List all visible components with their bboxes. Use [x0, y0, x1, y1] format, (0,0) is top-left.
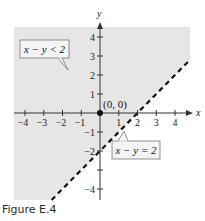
svg-text:−2: −2: [56, 117, 67, 128]
svg-text:−2: −2: [84, 146, 95, 157]
svg-text:−4: −4: [18, 117, 29, 128]
origin-test-point: [97, 110, 103, 116]
svg-text:3: 3: [90, 51, 95, 62]
origin-point-label: (0, 0): [103, 98, 127, 111]
svg-text:−3: −3: [37, 117, 48, 128]
y-axis-arrow-icon: [97, 22, 103, 29]
svg-text:2: 2: [90, 70, 95, 81]
svg-text:4: 4: [90, 32, 95, 43]
svg-text:x − y = 2: x − y = 2: [114, 144, 157, 156]
svg-text:2: 2: [135, 117, 140, 128]
graph-canvas: −4 −3 −2 −1 1 2 3 4 4 3 2 1 −1 −2 −4 x y…: [0, 0, 205, 221]
svg-text:−4: −4: [84, 184, 95, 195]
inequality-graph-figure: −4 −3 −2 −1 1 2 3 4 4 3 2 1 −1 −2 −4 x y…: [0, 0, 205, 221]
svg-text:4: 4: [173, 117, 178, 128]
svg-text:−1: −1: [84, 127, 95, 138]
x-axis-arrow-icon: [186, 110, 193, 116]
svg-text:x − y < 2: x − y < 2: [23, 43, 66, 55]
svg-text:1: 1: [90, 89, 95, 100]
x-axis-label: x: [195, 107, 201, 118]
svg-text:1: 1: [116, 117, 121, 128]
y-axis-label: y: [96, 8, 102, 19]
boundary-label-callout: x − y = 2: [112, 131, 160, 159]
svg-text:3: 3: [154, 117, 159, 128]
figure-caption: Figure E.4: [2, 203, 57, 216]
